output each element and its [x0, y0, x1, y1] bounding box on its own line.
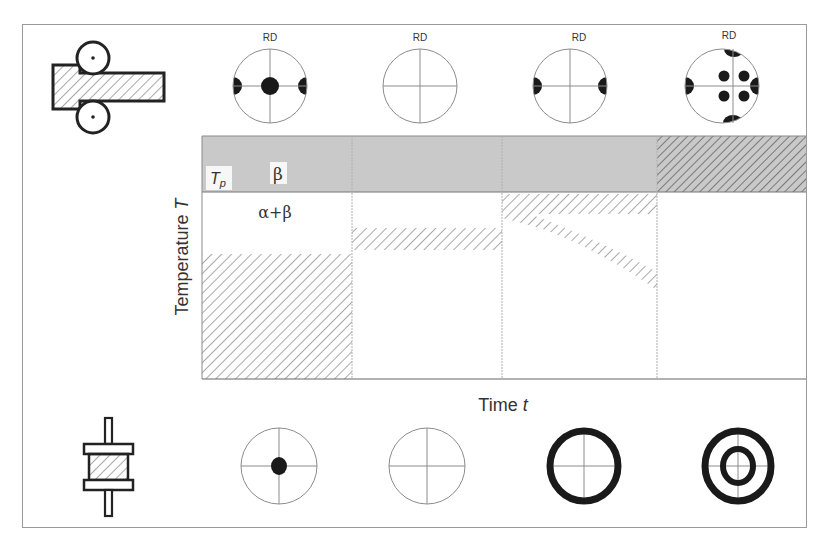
pole-figure-bottom-3	[548, 430, 620, 502]
beta-label: β	[273, 164, 283, 184]
pole-figure-bottom-1	[241, 428, 317, 504]
rd-label: RD	[572, 32, 586, 43]
x-axis-label: Time t	[478, 395, 528, 415]
hatch-col3-top	[502, 194, 657, 214]
rd-label: RD	[263, 32, 277, 43]
texture-processing-diagram: RD RD RD	[0, 0, 828, 540]
pole-figure-top-1: RD	[224, 32, 316, 123]
hatch-col2	[352, 228, 502, 250]
pole-figure-top-3: RD	[524, 32, 616, 123]
bottom-pole-figures	[241, 428, 772, 504]
pole-figure-bottom-2	[389, 428, 465, 504]
top-pole-figures: RD RD RD	[224, 30, 768, 131]
alpha-beta-label: α+β	[258, 203, 291, 222]
pole-figure-bottom-4	[704, 430, 772, 502]
rd-label: RD	[722, 30, 736, 41]
temperature-time-plot: Tp β α+β Temperature T Time t	[172, 136, 806, 415]
rd-label: RD	[413, 32, 427, 43]
pole-figure-top-2: RD	[383, 32, 457, 123]
hatch-col1	[202, 254, 352, 379]
hatch-col4-beta	[657, 136, 806, 192]
hatch-col3-curve	[502, 214, 657, 290]
pole-figure-top-4: RD	[676, 30, 768, 131]
upsetting-press-icon	[84, 418, 133, 516]
rolling-process-icon	[53, 42, 164, 133]
y-axis-label: Temperature T	[172, 196, 192, 315]
